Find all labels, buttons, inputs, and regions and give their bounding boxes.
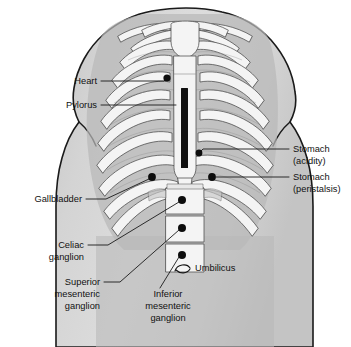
marker-stomach-acidity xyxy=(196,150,203,157)
label-stomach-peristalsis-line-0: Stomach xyxy=(293,172,330,182)
label-superior-mesenteric-line-2: ganglion xyxy=(65,301,100,311)
label-superior-mesenteric-line-0: Superior xyxy=(65,277,100,287)
label-gallbladder: Gallbladder xyxy=(34,194,82,204)
label-pylorus-line-0: Pylorus xyxy=(66,100,97,110)
marker-superior-mesenteric xyxy=(178,224,186,232)
label-stomach-acidity-line-0: Stomach xyxy=(293,144,330,154)
marker-gallbladder xyxy=(148,173,156,181)
label-heart-line-0: Heart xyxy=(74,76,97,86)
sternum-bar xyxy=(181,88,188,168)
label-inferior-mesenteric-line-1: mesenteric xyxy=(145,301,191,311)
label-celiac-ganglion-line-0: Celiac xyxy=(58,240,84,250)
label-heart: Heart xyxy=(74,76,97,86)
anatomy-svg: Heart Pylorus Stomach (acidity) Stomach … xyxy=(0,0,351,347)
marker-inferior-mesenteric xyxy=(178,251,186,259)
sternum xyxy=(171,21,199,201)
label-umbilicus: Umbilicus xyxy=(195,263,236,273)
label-gallbladder-line-0: Gallbladder xyxy=(34,194,82,204)
label-inferior-mesenteric-line-2: ganglion xyxy=(150,313,185,323)
label-inferior-mesenteric-line-0: Inferior xyxy=(154,289,183,299)
label-stomach-acidity-line-1: (acidity) xyxy=(293,156,326,166)
marker-heart xyxy=(163,74,170,81)
marker-stomach-peristalsis xyxy=(208,173,216,181)
label-umbilicus-line-0: Umbilicus xyxy=(195,263,236,273)
marker-celiac-ganglion xyxy=(178,196,186,204)
label-pylorus: Pylorus xyxy=(66,100,97,110)
anatomy-figure: Heart Pylorus Stomach (acidity) Stomach … xyxy=(0,0,351,347)
label-superior-mesenteric-line-1: mesenteric xyxy=(55,289,101,299)
label-stomach-peristalsis-line-1: (peristalsis) xyxy=(293,184,341,194)
label-celiac-ganglion-line-1: ganglion xyxy=(49,252,84,262)
